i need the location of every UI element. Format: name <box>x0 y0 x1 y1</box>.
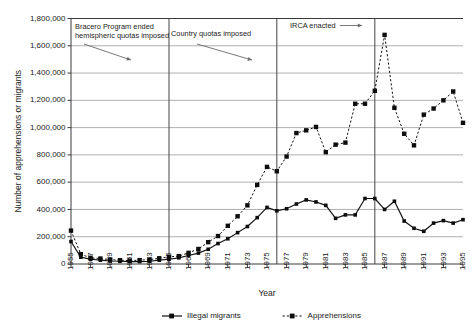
data-point-marker <box>422 112 426 116</box>
data-point-marker <box>382 33 386 37</box>
immigration-line-chart: 0200,000400,000600,000800,0001,000,0001,… <box>0 0 475 330</box>
data-point-marker <box>235 214 239 218</box>
annotation-text-bracero-line2: hemispheric quotas imposed <box>75 31 169 40</box>
data-point-marker <box>412 226 416 230</box>
x-axis-title: Year <box>258 288 275 298</box>
y-tick-label: 1,000,000 <box>30 123 66 132</box>
legend-label: Apprehensions <box>308 311 361 320</box>
data-point-marker <box>392 106 396 110</box>
x-tick-label: 1975 <box>262 252 271 270</box>
chart-container: 0200,000400,000600,000800,0001,000,0001,… <box>0 0 475 330</box>
data-point-marker <box>197 251 201 255</box>
y-tick-label: 800,000 <box>37 150 66 159</box>
x-tick-label: 1993 <box>439 252 448 270</box>
data-point-marker <box>206 247 210 251</box>
x-tick-label: 1983 <box>341 252 350 270</box>
data-point-marker <box>324 150 328 154</box>
data-point-marker <box>226 224 230 228</box>
y-tick-label: 200,000 <box>37 232 66 241</box>
data-point-marker <box>216 234 220 238</box>
data-point-marker <box>147 257 151 261</box>
data-point-marker <box>294 131 298 135</box>
data-point-marker <box>69 228 73 232</box>
data-point-marker <box>314 200 318 204</box>
x-tick-label: 1991 <box>419 252 428 270</box>
data-point-marker <box>422 229 426 233</box>
y-tick-label: 1,400,000 <box>30 68 66 77</box>
data-point-marker <box>128 258 132 262</box>
data-point-marker <box>284 154 288 158</box>
data-point-marker <box>236 231 240 235</box>
data-point-marker <box>393 199 397 203</box>
data-point-marker <box>157 256 161 260</box>
data-point-marker <box>373 197 377 201</box>
data-point-marker <box>461 121 465 125</box>
data-point-marker <box>226 237 230 241</box>
x-tick-label: 1981 <box>321 252 330 270</box>
data-point-marker <box>295 202 299 206</box>
data-point-marker <box>79 252 83 256</box>
data-point-marker <box>186 251 190 255</box>
data-point-marker <box>167 255 171 259</box>
data-point-marker <box>344 213 348 217</box>
annotation-text-irca: IRCA enacted <box>290 21 336 30</box>
data-point-marker <box>373 89 377 93</box>
data-point-marker <box>265 165 269 169</box>
data-point-marker <box>245 203 249 207</box>
x-tick-label: 1955 <box>66 252 75 270</box>
y-tick-label: 1,800,000 <box>30 14 66 23</box>
data-point-marker <box>255 183 259 187</box>
data-point-marker <box>431 106 435 110</box>
annotation-text-country-quotas: Country quotas imposed <box>171 29 251 38</box>
legend-label: Illegal migrants <box>187 311 241 320</box>
data-point-marker <box>216 242 220 246</box>
data-point-marker <box>304 128 308 132</box>
data-point-marker <box>314 125 318 129</box>
y-axis-title: Number of apprehensions or migrants <box>13 70 23 213</box>
data-point-marker <box>108 257 112 261</box>
data-point-marker <box>441 98 445 102</box>
data-point-marker <box>275 169 279 173</box>
data-point-marker <box>137 258 141 262</box>
x-tick-label: 1985 <box>360 252 369 270</box>
x-tick-label: 1977 <box>282 252 291 270</box>
data-point-marker <box>402 132 406 136</box>
annotation-text-bracero: Bracero Program ended <box>75 22 154 31</box>
data-point-marker <box>442 219 446 223</box>
data-point-marker <box>383 208 387 212</box>
y-tick-label: 400,000 <box>37 205 66 214</box>
x-tick-label: 1989 <box>399 252 408 270</box>
y-tick-label: 1,200,000 <box>30 95 66 104</box>
x-tick-label: 1973 <box>243 252 252 270</box>
data-point-marker <box>206 240 210 244</box>
data-point-marker <box>69 240 73 244</box>
data-point-marker <box>451 221 455 225</box>
data-point-marker <box>196 247 200 251</box>
data-point-marker <box>334 217 338 221</box>
data-point-marker <box>363 197 367 201</box>
y-tick-label: 600,000 <box>37 177 66 186</box>
y-tick-label: 1,600,000 <box>30 41 66 50</box>
data-point-marker <box>461 218 465 222</box>
data-point-marker <box>353 213 357 217</box>
data-point-marker <box>304 198 308 202</box>
data-point-marker <box>265 206 269 210</box>
x-tick-label: 1969 <box>203 252 212 270</box>
data-point-marker <box>432 221 436 225</box>
data-point-marker <box>246 225 250 229</box>
data-point-marker <box>333 142 337 146</box>
data-point-marker <box>324 204 328 208</box>
data-point-marker <box>402 219 406 223</box>
x-tick-label: 1987 <box>380 252 389 270</box>
data-point-marker <box>285 207 289 211</box>
x-tick-label: 1979 <box>301 252 310 270</box>
data-point-marker <box>343 140 347 144</box>
data-point-marker <box>353 102 357 106</box>
data-point-marker <box>275 209 279 213</box>
data-point-marker <box>255 216 259 220</box>
data-point-marker <box>363 102 367 106</box>
data-point-marker <box>118 258 122 262</box>
legend-swatch-marker <box>290 314 295 319</box>
data-point-marker <box>88 256 92 260</box>
data-point-marker <box>98 256 102 260</box>
